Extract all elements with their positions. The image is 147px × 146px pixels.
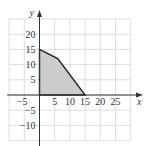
x-tick-label: 5 (52, 96, 57, 107)
y-tick-label: −5 (25, 105, 36, 116)
y-tick-label: 5 (31, 74, 36, 85)
y-tick-label: 20 (26, 29, 36, 40)
x-tick-label: 10 (65, 96, 75, 107)
x-axis-label: x (136, 96, 142, 107)
y-axis-label: y (29, 7, 35, 18)
chart-plot: −55101520252015105−5−10 x y (0, 0, 147, 146)
shaded-region (40, 49, 86, 95)
y-tick-label: 10 (26, 59, 36, 70)
y-tick-label: −10 (20, 120, 36, 131)
x-tick-label: 15 (80, 96, 90, 107)
x-tick-label: 25 (111, 96, 121, 107)
x-tick-label: 20 (95, 96, 105, 107)
y-tick-label: 15 (26, 44, 36, 55)
